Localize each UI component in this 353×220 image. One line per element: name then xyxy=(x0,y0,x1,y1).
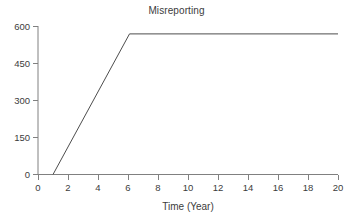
chart-figure: Misreporting 600 450 300 150 0 xyxy=(0,0,353,220)
x-tick-label: 20 xyxy=(333,182,344,193)
x-tick-label: 4 xyxy=(95,182,100,193)
data-series-line xyxy=(53,34,338,175)
x-axis-ticks xyxy=(39,175,339,180)
x-tick-label: 2 xyxy=(65,182,70,193)
y-tick-label: 600 xyxy=(14,21,30,32)
y-tick-label: 150 xyxy=(14,132,30,143)
x-tick-label: 8 xyxy=(155,182,160,193)
x-tick-label: 16 xyxy=(273,182,284,193)
y-tick-label: 300 xyxy=(14,95,30,106)
y-tick-label: 450 xyxy=(14,58,30,69)
x-tick-label: 18 xyxy=(303,182,314,193)
x-tick-label: 6 xyxy=(125,182,130,193)
x-axis-title: Time (Year) xyxy=(162,201,214,212)
x-tick-label: 14 xyxy=(243,182,254,193)
plot-area: 600 450 300 150 0 0 2 4 6 8 10 xyxy=(0,0,353,220)
x-tick-label: 10 xyxy=(183,182,194,193)
y-tick-label: 0 xyxy=(25,169,30,180)
x-axis-tick-labels: 0 2 4 6 8 10 12 14 16 18 20 xyxy=(35,182,343,193)
y-axis-tick-labels: 600 450 300 150 0 xyxy=(14,21,30,180)
x-tick-label: 12 xyxy=(213,182,224,193)
x-tick-label: 0 xyxy=(35,182,40,193)
y-axis-ticks xyxy=(33,27,38,175)
